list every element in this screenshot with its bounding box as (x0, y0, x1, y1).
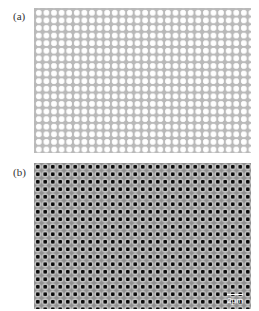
panel-a-label: (a) (13, 10, 25, 22)
scale-bar-line (227, 294, 243, 296)
panel-b-image: 2μm (34, 163, 251, 309)
panel-b-label: (b) (13, 166, 26, 178)
scale-bar: 2μm (227, 294, 243, 306)
scale-bar-text: 2μm (227, 296, 243, 305)
panel-a-image (34, 8, 251, 153)
